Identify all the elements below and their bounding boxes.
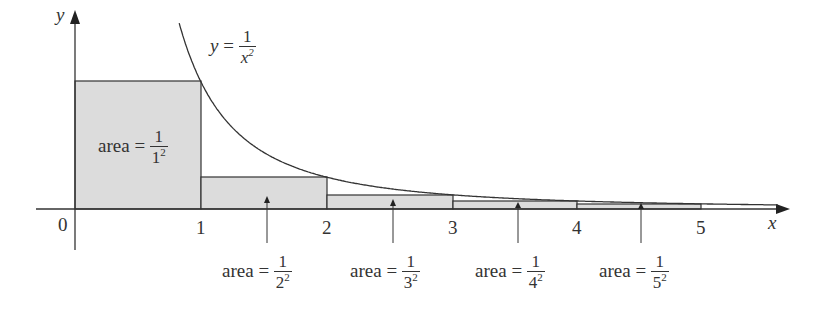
rect-3	[327, 195, 453, 209]
tick-4: 4	[572, 217, 582, 239]
rect-2	[201, 177, 327, 209]
area-label-1: area = 112	[98, 128, 168, 167]
curve-label: y = 1x2	[210, 28, 256, 67]
tick-3: 3	[448, 217, 458, 239]
tick-1: 1	[196, 217, 206, 239]
y-axis-arrow-icon	[70, 10, 80, 24]
area-label-3: area = 132	[350, 253, 420, 292]
area-label-5: area = 152	[599, 253, 669, 292]
rect-4	[453, 201, 577, 209]
area-label-4: area = 142	[475, 253, 545, 292]
y-axis-label: y	[56, 4, 64, 26]
tick-2: 2	[322, 217, 332, 239]
tick-5: 5	[696, 217, 706, 239]
x-axis-arrow-icon	[776, 204, 790, 214]
area-label-2: area = 122	[222, 253, 292, 292]
tick-0: 0	[58, 214, 68, 236]
x-axis-label: x	[768, 212, 776, 234]
